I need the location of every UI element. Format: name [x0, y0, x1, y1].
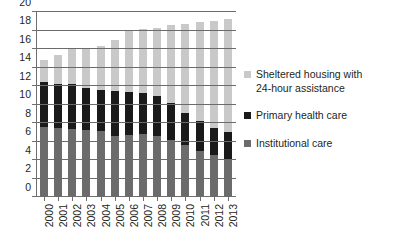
bar-segment	[40, 82, 48, 126]
legend-swatch-icon	[244, 112, 251, 119]
bar-segment	[153, 96, 161, 136]
legend-item[interactable]: Institutional care	[244, 137, 392, 151]
bar-segment	[97, 90, 105, 132]
x-tick-cell: 2012	[207, 197, 221, 247]
legend-item[interactable]: Primary health care	[244, 109, 392, 123]
bar-stack	[224, 19, 232, 197]
x-tick-cell: 2009	[164, 197, 178, 247]
bar-segment	[153, 136, 161, 197]
bar-stack	[54, 55, 62, 197]
bar-series-group	[36, 12, 236, 197]
bar-column	[207, 12, 221, 197]
bar-segment	[125, 92, 133, 135]
legend-item[interactable]: Sheltered housing with24-hour assistance	[244, 68, 392, 95]
legend-swatch-icon	[244, 140, 251, 147]
plot-area: 02468101214161820	[36, 12, 236, 197]
bar-segment	[139, 134, 147, 197]
bar-segment	[167, 25, 175, 103]
x-tick-mark	[171, 197, 172, 201]
bar-column	[150, 12, 164, 197]
bar-column	[136, 12, 150, 197]
legend-label: Primary health care	[256, 109, 347, 123]
y-tick-label: 6	[25, 126, 31, 137]
y-tick-label: 10	[19, 89, 31, 100]
bar-segment	[40, 127, 48, 197]
bar-segment	[153, 28, 161, 96]
x-tick-cell: 2010	[178, 197, 192, 247]
y-tick-label: 18	[19, 15, 31, 26]
x-tick-mark	[86, 197, 87, 201]
bar-segment	[68, 84, 76, 128]
x-tick-cell: 2002	[65, 197, 79, 247]
x-tick-cell: 2001	[51, 197, 65, 247]
x-tick-mark	[101, 197, 102, 201]
bar-column	[178, 12, 192, 197]
bar-stack	[210, 21, 218, 197]
x-tick-mark	[129, 197, 130, 201]
bar-stack	[153, 28, 161, 197]
x-tick-mark	[115, 197, 116, 201]
x-tick-cell: 2013	[221, 197, 235, 247]
bar-segment	[125, 135, 133, 197]
bar-stack	[167, 25, 175, 197]
bar-segment	[111, 136, 119, 197]
x-tick-label: 2013	[228, 204, 239, 227]
bar-segment	[54, 55, 62, 84]
y-tick-label: 0	[25, 181, 31, 192]
y-tick-label: 8	[25, 107, 31, 118]
bar-segment	[97, 46, 105, 89]
bar-segment	[224, 132, 232, 160]
bar-segment	[139, 93, 147, 134]
bar-column	[37, 12, 51, 197]
bar-column	[221, 12, 235, 197]
bar-segment	[167, 103, 175, 140]
bar-segment	[196, 121, 204, 151]
bar-stack	[181, 24, 189, 197]
x-tick-mark	[44, 197, 45, 201]
bar-segment	[82, 88, 90, 131]
bar-segment	[210, 155, 218, 197]
y-tick-label: 16	[19, 33, 31, 44]
bar-column	[65, 12, 79, 197]
x-tick-mark	[185, 197, 186, 201]
bar-segment	[111, 40, 119, 91]
bar-stack	[97, 46, 105, 197]
bar-segment	[82, 49, 90, 88]
x-tick-cell: 2000	[37, 197, 51, 247]
bar-stack	[40, 60, 48, 197]
y-tick-label: 12	[19, 70, 31, 81]
x-tick-mark	[200, 197, 201, 201]
bar-column	[51, 12, 65, 197]
legend-label: Institutional care	[256, 137, 332, 151]
legend-swatch-icon	[244, 71, 251, 78]
bar-column	[122, 12, 136, 197]
x-tick-cell: 2003	[79, 197, 93, 247]
x-tick-cell: 2011	[193, 197, 207, 247]
bar-stack	[111, 40, 119, 197]
bar-segment	[181, 145, 189, 197]
bar-segment	[68, 49, 76, 84]
bar-segment	[68, 129, 76, 197]
chart-legend: Sheltered housing with24-hour assistance…	[244, 68, 392, 164]
bar-segment	[196, 22, 204, 121]
stacked-bar-chart: 02468101214161820 2000200120022003200420…	[0, 0, 393, 248]
y-tick-label: 4	[25, 144, 31, 155]
bar-stack	[68, 49, 76, 197]
x-tick-mark	[58, 197, 59, 201]
x-tick-mark	[157, 197, 158, 201]
x-tick-mark	[72, 197, 73, 201]
bar-segment	[210, 21, 218, 127]
bar-segment	[54, 84, 62, 127]
x-tick-cell: 2007	[136, 197, 150, 247]
bar-stack	[82, 49, 90, 197]
bar-column	[193, 12, 207, 197]
x-tick-cell: 2004	[94, 197, 108, 247]
x-tick-cell: 2005	[108, 197, 122, 247]
bar-segment	[54, 128, 62, 197]
bar-segment	[210, 128, 218, 156]
x-tick-mark	[228, 197, 229, 201]
y-tick-label: 14	[19, 52, 31, 63]
bar-segment	[167, 140, 175, 197]
y-tick-label: 20	[19, 0, 31, 7]
bar-segment	[97, 131, 105, 197]
